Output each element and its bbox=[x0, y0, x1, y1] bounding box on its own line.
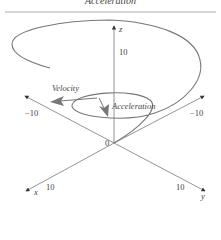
velocity-arrow bbox=[50, 96, 97, 106]
acceleration-label: Acceleration bbox=[112, 102, 155, 111]
neg-y-tick-label: −10 bbox=[190, 109, 203, 118]
velocity-label: Velocity bbox=[52, 84, 79, 93]
y-axis-label: y bbox=[201, 192, 205, 201]
y-axis bbox=[114, 143, 205, 191]
z-tick-label: 10 bbox=[119, 48, 128, 57]
x-axis bbox=[26, 143, 114, 191]
neg-x-tick-label: −10 bbox=[25, 109, 38, 118]
x-axis-label: x bbox=[34, 188, 38, 197]
x-tick-label: 10 bbox=[46, 183, 55, 192]
acceleration-arrow bbox=[99, 98, 109, 117]
helix-curve bbox=[12, 20, 201, 143]
neg-x-axis bbox=[25, 96, 114, 143]
z-axis-label: z bbox=[119, 25, 122, 34]
origin-label: 0 bbox=[105, 139, 109, 148]
y-tick-label: 10 bbox=[176, 183, 185, 192]
